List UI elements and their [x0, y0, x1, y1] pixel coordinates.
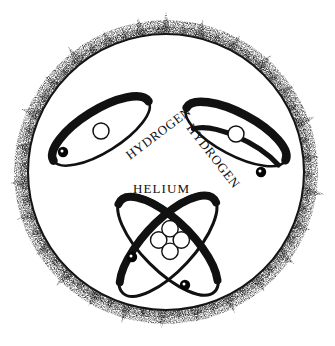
hydrogen-right-nucleus	[228, 126, 244, 142]
sun-fusion-illustration: HYDROGEN HYDROGEN HELIUM	[0, 0, 335, 346]
helium-electron-2-highlight	[183, 283, 186, 286]
hydrogen-left-nucleus	[93, 123, 109, 139]
helium-electron-1-highlight	[130, 255, 133, 258]
sun-group: HYDROGEN HYDROGEN HELIUM	[10, 12, 325, 328]
hydrogen-left-electron-highlight	[61, 150, 64, 153]
illustration-canvas: HYDROGEN HYDROGEN HELIUM	[0, 0, 335, 346]
hydrogen-right-electron-highlight	[259, 170, 262, 173]
label-helium: HELIUM	[133, 181, 190, 196]
